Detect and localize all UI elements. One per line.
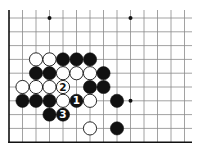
black-stone xyxy=(97,67,110,80)
white-stone xyxy=(56,94,69,107)
white-stone-icon xyxy=(43,80,56,93)
white-stone xyxy=(70,67,83,80)
star-point-icon xyxy=(129,99,133,103)
white-stone xyxy=(16,80,29,93)
stones: 213 xyxy=(16,53,124,135)
star-point-icon xyxy=(129,16,133,20)
white-stone xyxy=(83,122,96,135)
black-stone-icon xyxy=(56,53,69,66)
white-stone-icon xyxy=(29,53,42,66)
black-stone: 3 xyxy=(56,108,69,121)
move-number-label: 2 xyxy=(59,81,66,93)
white-stone xyxy=(29,80,42,93)
black-stone xyxy=(110,122,123,135)
black-stone-icon xyxy=(97,67,110,80)
black-stone xyxy=(83,80,96,93)
white-stone-icon xyxy=(83,122,96,135)
white-stone: 2 xyxy=(56,80,69,93)
black-stone-icon xyxy=(43,94,56,107)
black-stone-icon xyxy=(110,94,123,107)
black-stone-icon xyxy=(43,108,56,121)
black-stone-icon xyxy=(97,80,110,93)
black-stone xyxy=(16,94,29,107)
black-stone-icon xyxy=(29,94,42,107)
white-stone-icon xyxy=(83,94,96,107)
black-stone xyxy=(83,53,96,66)
black-stone-icon xyxy=(83,53,96,66)
star-point-icon xyxy=(48,16,52,20)
black-stone xyxy=(70,53,83,66)
white-stone xyxy=(83,94,96,107)
black-stone-icon xyxy=(16,94,29,107)
white-stone xyxy=(83,67,96,80)
white-stone-icon xyxy=(29,80,42,93)
black-stone xyxy=(43,67,56,80)
white-stone-icon xyxy=(16,80,29,93)
white-stone-icon xyxy=(83,67,96,80)
black-stone xyxy=(97,80,110,93)
move-number-label: 1 xyxy=(73,94,80,106)
black-stone xyxy=(29,94,42,107)
white-stone xyxy=(29,53,42,66)
white-stone-icon xyxy=(43,53,56,66)
black-stone-icon xyxy=(70,53,83,66)
black-stone-icon xyxy=(110,122,123,135)
white-stone-icon xyxy=(56,67,69,80)
black-stone xyxy=(43,94,56,107)
black-stone xyxy=(29,67,42,80)
white-stone xyxy=(56,67,69,80)
white-stone xyxy=(43,53,56,66)
black-stone xyxy=(43,108,56,121)
black-stone-icon xyxy=(83,80,96,93)
black-stone xyxy=(110,94,123,107)
white-stone-icon xyxy=(70,67,83,80)
white-stone-icon xyxy=(56,94,69,107)
white-stone xyxy=(43,80,56,93)
black-stone-icon xyxy=(43,67,56,80)
black-stone-icon xyxy=(29,67,42,80)
black-stone xyxy=(56,53,69,66)
go-board: 213 xyxy=(0,0,202,152)
move-number-label: 3 xyxy=(59,108,66,120)
black-stone: 1 xyxy=(70,94,83,107)
